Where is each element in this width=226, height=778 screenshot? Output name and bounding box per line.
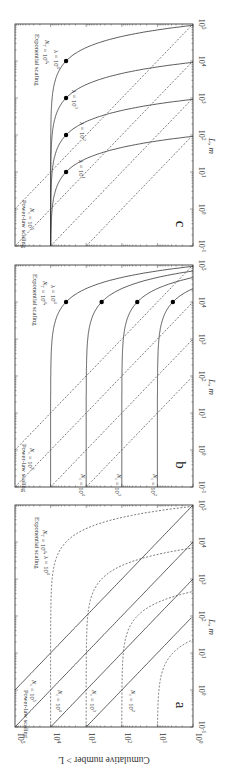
lambda-marker [64, 300, 68, 304]
exponential-scaling-label: Exponential scaling [34, 34, 41, 86]
power-law-line [86, 137, 191, 246]
x-tick-label: 105 [197, 500, 207, 511]
x-tick-label: 103 [197, 93, 207, 104]
power-law-line [15, 542, 193, 727]
lambda-label: λ = 102 [79, 122, 87, 142]
panel-letter: a [173, 702, 189, 709]
exponential-scaling-label: Exponential scaling [34, 517, 41, 569]
exp-lambda-label: λ = 104 [50, 285, 58, 305]
y-tick-label: 100 [194, 733, 204, 744]
x-axis-label: L, m [207, 618, 217, 636]
panel-letter: c [173, 221, 189, 228]
lambda-marker [64, 96, 68, 100]
nc-label: Nc = 102 [128, 689, 137, 713]
nc-label: Nc = 104 [78, 473, 87, 497]
exponential-curve [51, 136, 193, 246]
x-tick-label: 101 [197, 408, 207, 419]
x-tick-label: 102 [197, 611, 207, 622]
x-tick-label: 102 [197, 371, 207, 382]
nc-label: Nc = 103 [114, 473, 123, 497]
x-tick-label: 103 [197, 334, 207, 345]
power-law-line [15, 61, 193, 246]
x-tick-label: 102 [197, 130, 207, 141]
x-tick-label: 100 [197, 685, 207, 696]
exponential-curve [86, 548, 193, 727]
x-tick-label: 105 [197, 260, 207, 271]
nc-label: Nc = 105 [29, 679, 38, 703]
lambda-marker [64, 59, 68, 63]
power-law-scaling-label: Power-law scaling [21, 200, 28, 249]
lambda-marker [64, 170, 68, 174]
x-axis-label: L, m [207, 378, 217, 396]
y-tick-label: 104 [52, 733, 62, 744]
power-law-line [86, 378, 191, 487]
exponential-curve [157, 289, 193, 487]
nc-label: Nc = 102 [150, 473, 159, 497]
exponential-curve [51, 25, 193, 246]
y-tick-label: 102 [123, 733, 133, 744]
x-axis-label: L, m [207, 137, 217, 155]
y-tick-label: 101 [158, 733, 168, 744]
x-tick-label: 101 [197, 648, 207, 659]
x-tick-label: 103 [197, 574, 207, 585]
y-tick-label: 105 [16, 733, 26, 744]
x-tick-label: 104 [197, 297, 207, 308]
lambda-label: λ = 101 [78, 160, 86, 179]
y-tick-label: 103 [87, 733, 97, 744]
lambda-label: λ = 104 [53, 50, 61, 70]
power-law-scaling-label: Power-law scaling [21, 444, 28, 493]
exp-nt-label: NT = 104, [42, 39, 52, 65]
x-tick-label: 104 [197, 537, 207, 548]
nc-label: Nc = 103 [89, 689, 98, 713]
panel-a: 10-1100101102103104105L, maPower-law sca… [15, 500, 217, 739]
lambda-marker [99, 300, 103, 304]
exponential-scaling-label: Exponential scaling [32, 274, 39, 326]
lambda-label: λ = 103 [71, 90, 79, 110]
y-axis-label: Cumulative number > L [58, 755, 150, 765]
panel-b: 10-1100101102103104105L, mbPower-law sca… [15, 260, 217, 497]
panel-c: 10-1100101102103104105L, mcPower-law sca… [15, 19, 217, 253]
nc-label: Nc = 104 [55, 689, 64, 713]
lambda-marker [171, 300, 175, 304]
exp-nt-label: NT = 104, [40, 280, 50, 306]
x-tick-label: 100 [197, 445, 207, 456]
exponential-curve [158, 640, 193, 727]
lambda-marker [135, 300, 139, 304]
panel-letter: b [173, 461, 189, 469]
x-tick-label: 10-1 [197, 240, 207, 253]
power-law-scaling-label: Power-law scaling [23, 690, 30, 739]
power-law-line [86, 618, 191, 727]
figure: 10-1100101102103104105L, mcPower-law sca… [0, 0, 226, 778]
x-tick-label: 101 [197, 167, 207, 178]
x-tick-label: 104 [197, 56, 207, 67]
x-tick-label: 105 [197, 19, 207, 30]
power-law-line [51, 98, 193, 246]
x-tick-label: 10-1 [197, 721, 207, 734]
lambda-marker [64, 133, 68, 137]
x-tick-label: 10-1 [197, 481, 207, 494]
power-law-line [15, 302, 193, 487]
x-tick-label: 100 [197, 204, 207, 215]
